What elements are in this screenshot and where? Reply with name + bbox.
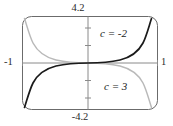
plot-canvas	[0, 0, 173, 126]
x-axis-min-label: -1	[4, 57, 13, 68]
curve-label-c-3: c = 3	[104, 81, 127, 92]
y-axis-min-label: -4.2	[72, 112, 89, 123]
y-axis-max-label: 4.2	[71, 3, 84, 14]
x-axis-max-label: 1	[161, 57, 166, 68]
function-plot-figure: 4.2 -4.2 -1 1 c = -2 c = 3	[0, 0, 173, 126]
curve-label-c-neg2: c = -2	[100, 28, 127, 39]
